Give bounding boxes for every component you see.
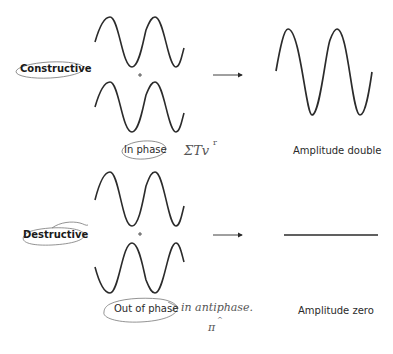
constructive-handwritten-annotation: ΣTv [183,143,210,158]
destructive-handwritten-annotation-line2: π [207,321,216,334]
destructive-handwritten-annotation-line1: in antiphase. [181,301,253,314]
in-phase-label: In phase [124,144,167,155]
destructive-plus-sign [138,232,142,236]
constructive-input-wave-1 [95,17,184,67]
destructive-handwritten-superscript: ^ [217,316,223,324]
destructive-label: Destructive [23,229,88,240]
amplitude-zero-label: Amplitude zero [298,305,374,316]
constructive-result-wave [276,29,372,115]
constructive-label: Constructive [20,63,92,74]
destructive-input-wave-1 [95,172,184,226]
diagram-canvas: ΣTv r in antiphase. π ^ [0,0,393,354]
constructive-plus-sign [138,73,142,77]
constructive-handwritten-superscript: r [213,138,217,147]
destructive-pencil-stroke [52,222,88,228]
destructive-input-wave-2 [95,243,184,293]
amplitude-double-label: Amplitude double [293,145,382,156]
out-of-phase-label: Out of phase [114,303,178,314]
constructive-input-wave-2 [95,82,184,132]
